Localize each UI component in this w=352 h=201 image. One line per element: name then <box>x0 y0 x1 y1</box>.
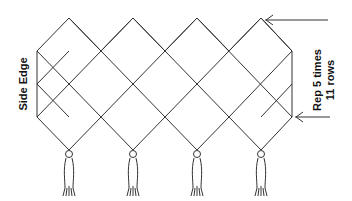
side-edge-label: Side Edge <box>17 57 29 110</box>
tassel <box>191 151 203 197</box>
repeat-label-line1: Rep 5 times <box>311 49 323 111</box>
top-arrow-icon <box>265 15 328 25</box>
mesh-grid <box>37 18 292 150</box>
tassel <box>255 151 267 197</box>
bottom-arrow-icon <box>295 112 330 122</box>
tassels <box>63 151 267 197</box>
repeat-label-line2: 11 rows <box>324 60 336 100</box>
tassel <box>127 151 139 197</box>
tassel <box>63 151 75 197</box>
netting-diagram: Side Edge Rep 5 times 11 rows <box>0 0 352 201</box>
